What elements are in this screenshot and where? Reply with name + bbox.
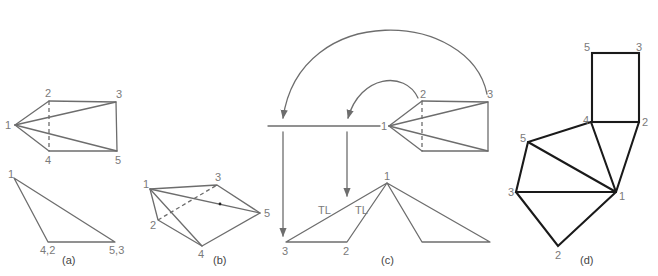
label-c-top-3: 3	[487, 88, 493, 100]
label-d-3: 3	[508, 186, 514, 198]
label-d-3-top: 3	[636, 41, 642, 53]
label-a-top-5: 5	[115, 154, 121, 166]
panel-a-top-view: 1 2 3 4 5	[5, 87, 122, 166]
label-a-top-3: 3	[116, 88, 122, 100]
panel-c-top-view: 1 2 3	[268, 88, 493, 151]
caption-c: (c)	[381, 254, 394, 266]
label-a-front-53: 5,3	[109, 244, 124, 256]
label-b-5: 5	[264, 207, 270, 219]
label-c-front-2: 2	[343, 245, 349, 257]
label-c-top-1: 1	[381, 120, 387, 132]
true-length-label-2: TL	[355, 204, 368, 216]
label-d-2-right: 2	[642, 116, 648, 128]
large-revolution-arrow	[283, 30, 487, 118]
panel-a: 1 2 3 4 5 1 4,2 5,3 (a)	[5, 87, 124, 266]
panel-c: 1 2 3 1 3 2 TL TL (c)	[268, 30, 493, 266]
label-a-front-1: 1	[8, 168, 14, 180]
label-d-5-top: 5	[584, 41, 590, 53]
label-b-3: 3	[215, 171, 221, 183]
caption-b: (b)	[213, 254, 226, 266]
true-length-label-1: TL	[318, 204, 331, 216]
panel-c-front-view: 1 3 2 TL TL	[282, 170, 490, 257]
top-face-pattern	[592, 53, 639, 122]
label-b-4: 4	[198, 248, 204, 260]
label-d-5: 5	[520, 132, 526, 144]
panel-b: 1 2 3 4 5 (b)	[143, 171, 270, 266]
label-b-1: 1	[143, 178, 149, 190]
panel-a-front-view: 1 4,2 5,3	[8, 168, 124, 256]
label-c-front-1: 1	[384, 170, 390, 182]
panel-d: 5 3 4 2 5 3 1 2 (d)	[508, 41, 648, 266]
label-a-top-1: 1	[5, 119, 11, 131]
intersection-point	[219, 203, 222, 206]
label-c-top-2: 2	[420, 88, 426, 100]
label-b-2: 2	[150, 219, 156, 231]
development-diagram: 1 2 3 4 5 1 4,2 5,3 (a) 1 2 3 4 5 (b)	[0, 0, 658, 276]
caption-a: (a)	[62, 254, 75, 266]
label-d-4: 4	[583, 114, 589, 126]
label-a-front-42: 4,2	[40, 244, 55, 256]
label-a-top-2: 2	[45, 87, 51, 99]
label-c-front-3: 3	[282, 245, 288, 257]
label-d-1: 1	[619, 190, 625, 202]
label-d-2-bottom: 2	[555, 249, 561, 261]
label-a-top-4: 4	[45, 154, 51, 166]
caption-d: (d)	[580, 254, 593, 266]
